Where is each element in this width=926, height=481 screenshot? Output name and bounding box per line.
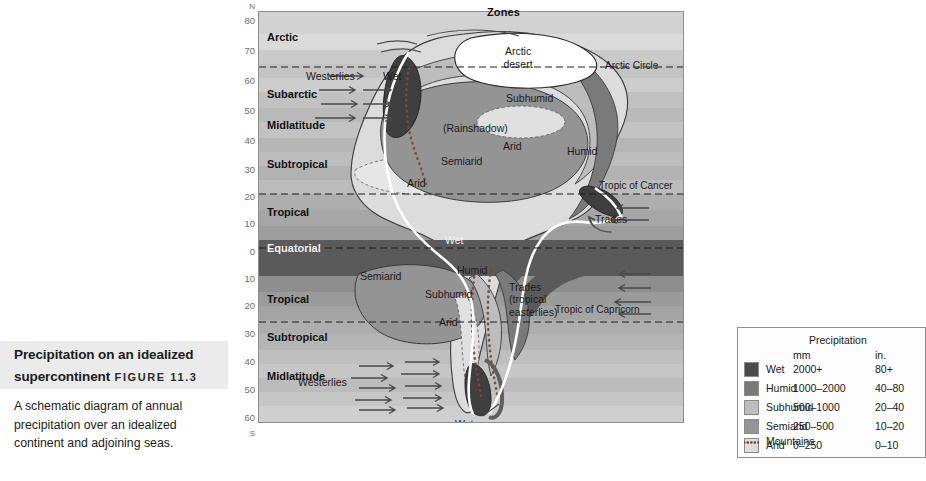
legend-unit-in: in. — [875, 349, 886, 361]
subhumid-label-south: Subhumid — [425, 288, 472, 300]
precipitation-legend: Precipitation mm in. Wet 2000+ 80+ Humid… — [737, 327, 926, 458]
zone-label-tropical-n: Tropical — [267, 206, 309, 218]
lat-tick-50s: 50 — [229, 384, 255, 395]
lat-pole-north: N — [229, 2, 255, 11]
arid-label-west: Arid — [407, 177, 426, 189]
tropic-of-cancer-label: Tropic of Cancer — [599, 180, 673, 191]
wet-label-northwest: Wet — [383, 70, 401, 82]
rainshadow-label: (Rainshadow) — [443, 122, 508, 134]
wet-label-south: Wet — [455, 418, 473, 423]
humid-label-south: Humid — [457, 264, 487, 276]
lat-tick-60s: 60 — [229, 412, 255, 423]
westerlies-label-north: Westerlies — [306, 70, 355, 82]
page-footer-strip — [440, 472, 703, 481]
legend-row-mountains: Mountains — [744, 435, 922, 451]
precipitation-map: Arctic Subarctic Midlatitude Subtropical… — [258, 11, 684, 423]
mountains-dotted-icon — [744, 441, 759, 444]
trades-label-north: Trades — [595, 213, 627, 225]
legend-name-humid: Humid — [766, 382, 796, 394]
legend-in-wet: 80+ — [875, 363, 893, 375]
lat-tick-50n: 50 — [229, 105, 255, 116]
zone-label-arctic-n: Arctic — [267, 31, 298, 43]
westerlies-label-south: Westerlies — [298, 376, 347, 388]
arctic-circle-label: Arctic Circle — [605, 60, 658, 71]
figure-title-inner: Precipitation on an idealized superconti… — [0, 343, 210, 386]
semiarid-label-south: Semiarid — [360, 270, 401, 282]
caption-column: Precipitation on an idealized superconti… — [0, 0, 228, 481]
lat-tick-40n: 40 — [229, 135, 255, 146]
arctic-desert-label: Arctic desert — [490, 45, 546, 70]
legend-unit-mm: mm — [793, 349, 811, 361]
latitude-axis: N 80 70 60 50 40 30 20 10 0 10 20 30 40 … — [228, 0, 258, 481]
lat-tick-30s: 30 — [229, 328, 255, 339]
legend-row-semiarid: Semiarid 250–500 10–20 — [744, 418, 922, 436]
lat-tick-10s: 10 — [229, 273, 255, 284]
lat-tick-20s: 20 — [229, 300, 255, 311]
lat-tick-80n: 80 — [229, 15, 255, 26]
legend-name-wet: Wet — [766, 363, 784, 375]
lat-tick-30n: 30 — [229, 164, 255, 175]
lat-tick-10n: 10 — [229, 218, 255, 229]
lat-tick-40s: 40 — [229, 356, 255, 367]
legend-row-wet: Wet 2000+ 80+ — [744, 361, 922, 379]
legend-in-subhumid: 20–40 — [875, 401, 904, 413]
zone-label-equatorial: Equatorial — [267, 242, 321, 254]
figure-title-line2: supercontinent — [14, 369, 110, 384]
arid-label-interior: Arid — [503, 140, 522, 152]
legend-swatch-subhumid — [744, 400, 759, 415]
arctic-desert-label-l1: Arctic — [505, 45, 531, 57]
humid-label-north: Humid — [567, 145, 597, 157]
tropic-of-capricorn-label: Tropic of Capricorn — [555, 304, 640, 315]
trades-label-south: Trades (tropical easterlies) — [509, 281, 557, 318]
legend-name-mountains: Mountains — [766, 435, 814, 447]
legend-swatch-semiarid — [744, 419, 759, 434]
trades-south-l2: (tropical — [509, 293, 546, 305]
subhumid-label-north: Subhumid — [506, 92, 553, 104]
legend-in-semiarid: 10–20 — [875, 420, 904, 432]
figure-title-box: Precipitation on an idealized superconti… — [0, 341, 228, 389]
zone-label-subtropical-n: Subtropical — [267, 158, 328, 170]
trades-south-l3: easterlies) — [509, 306, 557, 318]
legend-mm-subhumid: 500–1000 — [793, 401, 840, 413]
zone-label-subtropical-s: Subtropical — [267, 331, 328, 343]
legend-mm-semiarid: 250–500 — [793, 420, 834, 432]
lat-tick-20n: 20 — [229, 191, 255, 202]
zone-label-midlatitude-n: Midlatitude — [267, 119, 325, 131]
map-panel: N 80 70 60 50 40 30 20 10 0 10 20 30 40 … — [228, 0, 703, 481]
legend-in-humid: 40–80 — [875, 382, 904, 394]
legend-swatch-humid — [744, 381, 759, 396]
lat-tick-70n: 70 — [229, 45, 255, 56]
figure-caption-text: A schematic diagram of annual precipitat… — [14, 397, 219, 453]
figure-title-line1: Precipitation on an idealized — [14, 347, 193, 362]
legend-mm-humid: 1000–2000 — [793, 382, 846, 394]
legend-swatch-wet — [744, 362, 759, 377]
lat-tick-60n: 60 — [229, 75, 255, 86]
wet-label-equatorial: Wet — [445, 234, 463, 246]
semiarid-label-north: Semiarid — [441, 155, 482, 167]
zones-header: Zones — [487, 6, 520, 18]
arid-label-south: Arid — [439, 316, 458, 328]
figure-number-label: Figure 11.3 — [115, 371, 198, 383]
lat-pole-south: S — [229, 429, 255, 438]
legend-mm-wet: 2000+ — [793, 363, 823, 375]
legend-title: Precipitation — [809, 334, 867, 346]
legend-row-humid: Humid 1000–2000 40–80 — [744, 380, 922, 398]
legend-row-subhumid: Subhumid 500–1000 20–40 — [744, 399, 922, 417]
trades-south-l1: Trades — [509, 281, 541, 293]
lat-tick-0: 0 — [229, 246, 255, 257]
zone-label-tropical-s: Tropical — [267, 293, 309, 305]
zone-label-subarctic-n: Subarctic — [267, 88, 317, 100]
arctic-desert-label-l2: desert — [503, 58, 532, 70]
